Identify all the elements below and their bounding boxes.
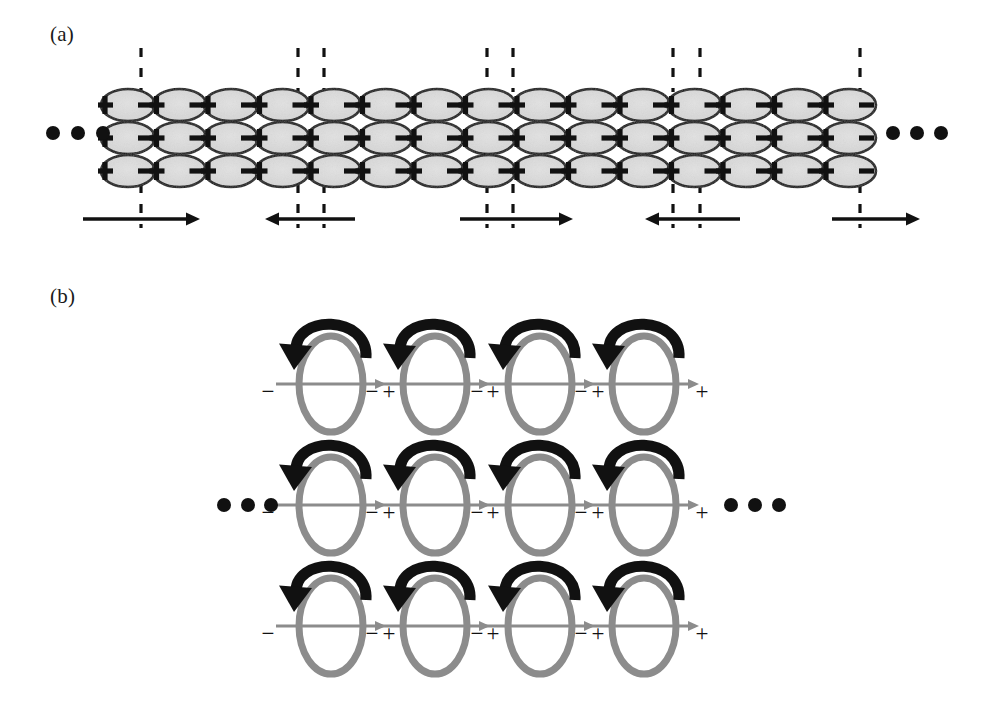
dipole-ellipse	[359, 89, 413, 121]
polarity-plus-bar-h	[253, 168, 268, 173]
lattice-ellipsis-right	[772, 498, 786, 512]
polarity-plus-bar-v	[154, 129, 159, 147]
dipole-ellipse	[359, 122, 413, 154]
polarity-plus-bar-v	[102, 162, 107, 180]
rotation-arc	[609, 324, 679, 358]
dipole-ellipse	[462, 155, 516, 187]
rotation-arrowhead	[592, 344, 625, 370]
dipole-ellipse	[719, 155, 773, 187]
polarization-arrow-right	[589, 621, 699, 631]
polarity-plus-bar-v	[617, 96, 622, 114]
polarization-arrow-right	[460, 213, 573, 226]
polarity-minus-bar	[396, 102, 411, 107]
panel-b-diagram: −+−+−+−+−+−+−+−+−+−+−+−+	[0, 0, 987, 725]
polarity-minus-bar	[859, 102, 874, 107]
polarity-plus-bar-h	[98, 135, 113, 140]
polarity-plus-bar-h	[304, 135, 319, 140]
polarity-plus-bar-v	[617, 162, 622, 180]
polarity-plus-bar-v	[514, 162, 519, 180]
polarity-plus-bar-v	[669, 162, 674, 180]
polarity-plus-bar-v	[514, 96, 519, 114]
rotation-arrowhead	[592, 465, 625, 491]
polarity-plus-bar-h	[459, 135, 474, 140]
toroid-unit: −+	[471, 445, 605, 553]
polarity-plus-bar-v	[566, 162, 571, 180]
rotation-arc	[400, 324, 470, 358]
polarization-arrow-right	[276, 621, 386, 631]
polarity-minus-bar	[499, 135, 514, 140]
polarity-plus-bar-h	[562, 135, 577, 140]
toroid-ring	[403, 578, 467, 674]
polarity-plus-bar-h	[407, 168, 422, 173]
dipole-ellipse	[410, 122, 464, 154]
dipole-ellipse	[771, 89, 825, 121]
rotation-arc	[505, 566, 575, 600]
rotation-arrowhead	[488, 586, 521, 612]
polarity-plus-bar-v	[669, 96, 674, 114]
sign-plus: +	[696, 379, 709, 404]
polarity-minus-bar	[808, 168, 823, 173]
toroid-unit: −+	[262, 324, 396, 432]
polarity-minus-bar	[705, 135, 720, 140]
dipole-ellipse	[307, 122, 361, 154]
sign-plus: +	[696, 621, 709, 646]
polarity-plus-bar-v	[463, 162, 468, 180]
polarity-minus-bar	[190, 135, 205, 140]
dipole-ellipse	[462, 89, 516, 121]
polarization-arrow-right	[380, 379, 490, 389]
toroid-ring	[403, 457, 467, 553]
rotation-arc	[609, 445, 679, 479]
polarity-plus-bar-v	[411, 129, 416, 147]
polarity-minus-bar	[190, 168, 205, 173]
dipole-ellipse	[822, 155, 876, 187]
dipole-ellipse	[101, 155, 155, 187]
toroid-unit: −+	[471, 566, 605, 674]
dipole-ellipse	[771, 122, 825, 154]
sign-minus: −	[471, 621, 484, 646]
rotation-arrowhead	[383, 344, 416, 370]
chain-ellipsis-left	[96, 126, 110, 140]
toroid-unit: −+	[575, 445, 709, 553]
polarity-minus-bar	[653, 102, 668, 107]
dipole-ellipse	[822, 122, 876, 154]
sign-minus: −	[366, 500, 379, 525]
dipole-ellipse	[359, 155, 413, 187]
dipole-ellipse	[668, 122, 722, 154]
polarity-plus-bar-h	[201, 168, 216, 173]
dipole-ellipse	[565, 155, 619, 187]
rotation-arc	[505, 324, 575, 358]
polarity-plus-bar-h	[150, 135, 165, 140]
polarity-plus-bar-h	[768, 135, 783, 140]
sign-plus: +	[487, 500, 500, 525]
polarity-plus-bar-v	[360, 129, 365, 147]
polarity-plus-bar-v	[514, 129, 519, 147]
polarity-minus-bar	[499, 102, 514, 107]
polarity-minus-bar	[241, 135, 256, 140]
panel-a-ellipsis-dots	[46, 126, 948, 140]
polarization-arrow-right	[589, 500, 699, 510]
polarity-plus-bar-v	[772, 162, 777, 180]
polarity-minus-bar	[447, 168, 462, 173]
rotation-arrowhead	[592, 586, 625, 612]
polarity-plus-bar-v	[772, 129, 777, 147]
rotation-arrowhead	[279, 465, 312, 491]
toroid-ring	[508, 336, 572, 432]
polarity-minus-bar	[344, 102, 359, 107]
polarity-plus-bar-h	[304, 168, 319, 173]
polarity-plus-bar-h	[356, 168, 371, 173]
polarity-plus-bar-v	[720, 96, 725, 114]
polarity-plus-bar-h	[768, 168, 783, 173]
polarity-minus-bar	[756, 102, 771, 107]
dipole-ellipse	[256, 89, 310, 121]
sign-plus: +	[592, 500, 605, 525]
polarity-minus-bar	[344, 168, 359, 173]
polarity-plus-bar-v	[463, 129, 468, 147]
polarity-plus-bar-h	[253, 102, 268, 107]
polarity-minus-bar	[705, 168, 720, 173]
dipole-ellipse	[616, 122, 670, 154]
toroid-unit: −+	[366, 445, 500, 553]
dipole-ellipse	[153, 122, 207, 154]
polarity-plus-bar-v	[617, 129, 622, 147]
polarity-plus-bar-h	[98, 102, 113, 107]
dipole-ellipse	[101, 122, 155, 154]
